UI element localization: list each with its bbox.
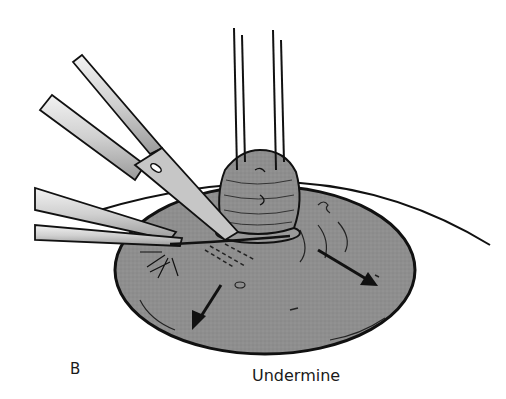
figure-caption: Undermine xyxy=(252,366,340,385)
traction-sutures xyxy=(234,28,284,170)
surgical-illustration xyxy=(0,0,506,399)
panel-label: B xyxy=(70,360,80,378)
